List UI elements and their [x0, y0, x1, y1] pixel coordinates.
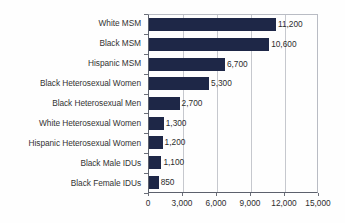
category-label: Black Heterosexual Men — [52, 99, 141, 108]
x-axis-tick — [250, 193, 251, 196]
category-label: Hispanic MSM — [88, 59, 141, 68]
bar-value-label: 6,700 — [227, 60, 248, 69]
category-axis: White MSMBlack MSMHispanic MSMBlack Hete… — [0, 14, 145, 193]
x-axis-tick-label: 6,000 — [206, 198, 227, 208]
category-label-cell: Hispanic MSM — [0, 54, 145, 74]
bar-chart: White MSMBlack MSMHispanic MSMBlack Hete… — [0, 0, 345, 223]
x-axis-tick — [182, 193, 183, 196]
bar-row: 1,100 — [149, 153, 317, 173]
bar — [149, 18, 276, 31]
bar-row: 10,600 — [149, 35, 317, 55]
bar-value-label: 1,200 — [165, 138, 186, 147]
category-label-cell: Black Heterosexual Women — [0, 74, 145, 94]
x-axis-tick — [284, 193, 285, 196]
bar-value-label: 2,700 — [182, 99, 203, 108]
category-label: Hispanic Heterosexual Women — [29, 139, 141, 148]
bar — [149, 136, 163, 149]
x-axis-tick-label: 12,000 — [271, 198, 296, 208]
x-axis-tick-label: 0 — [146, 198, 151, 208]
bar — [149, 97, 180, 110]
bar-row: 1,300 — [149, 113, 317, 133]
category-label: Black MSM — [99, 39, 141, 48]
bar-row: 850 — [149, 172, 317, 192]
x-axis-tick-labels: 03,0006,0009,00012,00015,000 — [148, 198, 319, 212]
category-label-cell: White MSM — [0, 14, 145, 34]
category-label-cell: Black Female IDUs — [0, 173, 145, 193]
x-axis-tick — [216, 193, 217, 196]
bar-row: 5,300 — [149, 74, 317, 94]
bar-value-label: 1,100 — [163, 158, 184, 167]
bar — [149, 58, 225, 71]
bar-row: 2,700 — [149, 94, 317, 114]
bar-value-label: 850 — [161, 178, 175, 187]
bar-value-label: 10,600 — [271, 40, 296, 49]
bar — [149, 156, 161, 169]
bar-value-label: 1,300 — [166, 119, 187, 128]
category-label-cell: Black Heterosexual Men — [0, 94, 145, 114]
category-label: White MSM — [99, 19, 141, 28]
category-label-cell: Hispanic Heterosexual Women — [0, 133, 145, 153]
category-label-cell: Black MSM — [0, 34, 145, 54]
category-label: Black Male IDUs — [80, 159, 141, 168]
x-axis-tick-label: 9,000 — [240, 198, 261, 208]
bar-value-label: 11,200 — [278, 20, 303, 29]
plot-area: 11,20010,6006,7005,3002,7001,3001,2001,1… — [148, 14, 318, 193]
bar-row: 11,200 — [149, 15, 317, 35]
bar — [149, 176, 159, 189]
x-axis-tick-label: 3,000 — [172, 198, 193, 208]
x-axis-tick — [318, 193, 319, 196]
bar — [149, 38, 269, 51]
category-label-cell: Black Male IDUs — [0, 153, 145, 173]
category-label-cell: White Heterosexual Women — [0, 113, 145, 133]
bars-layer: 11,20010,6006,7005,3002,7001,3001,2001,1… — [149, 15, 317, 192]
bar-row: 1,200 — [149, 133, 317, 153]
category-label: Black Heterosexual Women — [40, 79, 141, 88]
bar-row: 6,700 — [149, 54, 317, 74]
category-label: Black Female IDUs — [71, 179, 141, 188]
bar — [149, 77, 209, 90]
bar-value-label: 5,300 — [211, 79, 232, 88]
x-axis-tick — [148, 193, 149, 196]
x-axis-tick-label: 15,000 — [305, 198, 330, 208]
x-axis-ticks — [148, 193, 319, 197]
bar — [149, 117, 164, 130]
category-label: White Heterosexual Women — [39, 119, 141, 128]
